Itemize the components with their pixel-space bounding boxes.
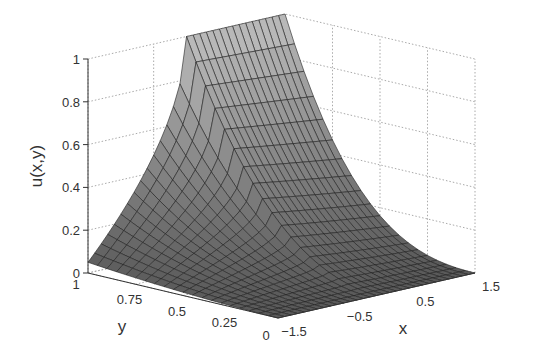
x-tick-label: 0.5 [416,294,434,309]
y-axis-label: y [118,317,127,336]
x-tick-label: −0.5 [347,309,373,324]
z-tick-label: 0.6 [62,138,80,153]
y-tick-label: 1 [72,277,79,292]
x-tick-label: 1.5 [482,279,500,294]
z-tick-label: 0.8 [62,95,80,110]
x-axis-label: x [399,319,408,338]
z-tick-label: 0.4 [62,180,80,195]
x-tick-label: −1.5 [281,324,307,339]
y-tick-label: 0.5 [168,304,186,319]
y-tick-label: 0.25 [212,315,237,330]
y-tick-label: 0 [262,328,269,343]
surface-plot: 00.20.40.60.8100.250.50.751−1.5−0.50.51.… [0,0,533,355]
z-tick-label: 1 [73,52,80,67]
z-axis-label: u(x,y) [27,145,46,188]
plot-canvas: 00.20.40.60.8100.250.50.751−1.5−0.50.51.… [0,0,533,355]
y-tick-label: 0.75 [117,292,142,307]
z-tick-label: 0.2 [62,223,80,238]
